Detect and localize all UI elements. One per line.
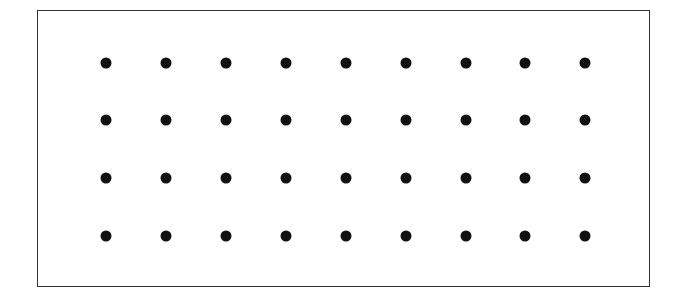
dot-r4-c9 <box>580 231 591 242</box>
dot-r3-c8 <box>520 173 531 184</box>
dot-r4-c5 <box>341 231 352 242</box>
dot-r3-c9 <box>580 173 591 184</box>
dot-r4-c8 <box>520 231 531 242</box>
dot-r1-c2 <box>161 58 172 69</box>
dot-r2-c7 <box>461 115 472 126</box>
dot-r3-c7 <box>461 173 472 184</box>
dot-r1-c3 <box>221 58 232 69</box>
dot-r3-c6 <box>401 173 412 184</box>
dot-r2-c2 <box>161 115 172 126</box>
dot-r4-c2 <box>161 231 172 242</box>
dot-r4-c6 <box>401 231 412 242</box>
dot-r1-c8 <box>520 58 531 69</box>
dot-r4-c4 <box>281 231 292 242</box>
dot-r1-c9 <box>580 58 591 69</box>
dot-r4-c7 <box>461 231 472 242</box>
dot-r3-c3 <box>221 173 232 184</box>
dot-r1-c1 <box>101 58 112 69</box>
dot-r3-c4 <box>281 173 292 184</box>
dot-r2-c9 <box>580 115 591 126</box>
dot-r3-c1 <box>101 173 112 184</box>
dot-r2-c3 <box>221 115 232 126</box>
dot-r1-c5 <box>341 58 352 69</box>
dot-r2-c8 <box>520 115 531 126</box>
dot-r3-c5 <box>341 173 352 184</box>
dot-r1-c4 <box>281 58 292 69</box>
dot-r4-c3 <box>221 231 232 242</box>
dot-r4-c1 <box>101 231 112 242</box>
dot-r1-c7 <box>461 58 472 69</box>
dot-r1-c6 <box>401 58 412 69</box>
dot-r2-c4 <box>281 115 292 126</box>
dot-r2-c1 <box>101 115 112 126</box>
dot-r3-c2 <box>161 173 172 184</box>
dot-r2-c5 <box>341 115 352 126</box>
dot-grid-frame <box>37 10 650 287</box>
dot-r2-c6 <box>401 115 412 126</box>
